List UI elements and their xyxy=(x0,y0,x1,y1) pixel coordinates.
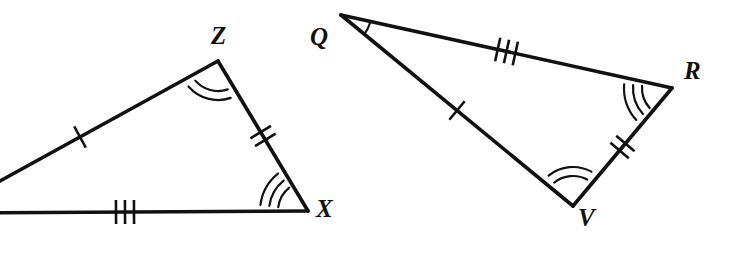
angle-arc xyxy=(269,181,283,206)
triangles-canvas xyxy=(0,0,730,253)
tick-mark xyxy=(74,126,86,147)
vertex-label-r: R xyxy=(684,58,701,83)
angle-arc xyxy=(278,188,289,208)
side-z-to-x xyxy=(218,61,308,211)
angle-arcs-vertex-v xyxy=(549,167,592,183)
side-left-to-z xyxy=(0,61,218,213)
angle-arcs-vertex-q xyxy=(365,23,370,32)
vertex-label-v: V xyxy=(578,205,595,230)
angle-arc xyxy=(188,86,230,100)
side-r-to-v xyxy=(573,88,672,206)
angle-arc xyxy=(554,176,587,183)
tick-marks-side-q-to-r xyxy=(495,38,518,65)
angle-arc xyxy=(365,23,370,32)
angle-arc xyxy=(549,167,592,176)
geometry-figure: ZXQRV xyxy=(0,0,730,253)
tick-marks-side-left-to-z xyxy=(74,126,86,147)
angle-arcs-vertex-r xyxy=(624,84,650,120)
triangle-right-triangle xyxy=(341,15,672,206)
tick-mark xyxy=(250,126,271,138)
angle-arc xyxy=(642,86,650,108)
vertex-label-x: X xyxy=(316,196,333,221)
side-group-side-left-to-z xyxy=(0,61,218,213)
triangle-left-triangle xyxy=(0,61,308,224)
tick-mark xyxy=(255,134,276,146)
vertex-label-q: Q xyxy=(310,24,328,49)
angle-arcs-vertex-x xyxy=(260,174,289,208)
vertex-label-z: Z xyxy=(211,23,226,48)
side-group-side-x-to-left xyxy=(0,211,308,213)
side-x-to-left xyxy=(0,211,308,213)
side-group-side-z-to-x xyxy=(218,61,308,211)
side-group-side-r-to-v xyxy=(573,88,672,206)
angle-arc xyxy=(195,81,227,91)
angle-arcs-vertex-z xyxy=(188,81,230,100)
